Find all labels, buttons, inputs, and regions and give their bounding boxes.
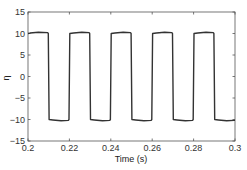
x-tick-label: 0.3 [229,143,242,153]
y-axis-label: η [1,75,11,80]
y-tick-label: −10 [10,115,25,125]
x-tick-label: 0.22 [61,143,79,153]
x-tick-label: 0.28 [185,143,203,153]
x-tick-label: 0.24 [102,143,120,153]
square-wave-chart: 0.20.220.240.260.280.3 −15−10−5051015 Ti… [0,0,247,170]
x-tick-label: 0.26 [143,143,161,153]
y-tick-label: 0 [20,72,25,82]
y-tick-label: 10 [15,29,25,39]
y-tick-label: −15 [10,136,25,146]
y-tick-label: 15 [15,7,25,17]
y-tick-label: 5 [20,50,25,60]
x-axis-label: Time (s) [115,154,148,164]
y-tick-label: −5 [15,93,25,103]
